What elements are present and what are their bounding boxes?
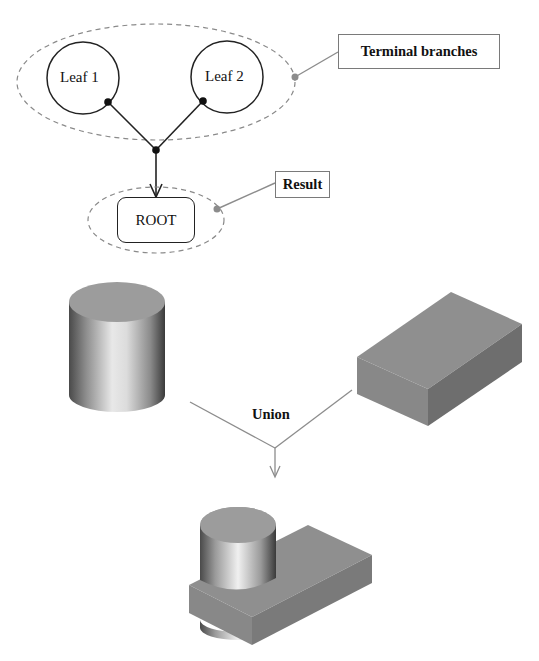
- edge-leaf2: [156, 101, 203, 150]
- leaf-2-label: Leaf 2: [205, 68, 244, 85]
- union-result-solid: [189, 507, 372, 645]
- joint-dot: [104, 98, 112, 106]
- edge-leaf1: [108, 102, 156, 150]
- box-solid: [357, 292, 522, 426]
- union-label: Union: [252, 406, 290, 423]
- result-callout: Result: [275, 171, 330, 198]
- diagram-canvas: [0, 0, 539, 661]
- terminal-branches-label: Terminal branches: [361, 43, 478, 60]
- joint-dot: [199, 97, 207, 105]
- root-label: ROOT: [136, 212, 177, 229]
- terminal-group-ellipse: [17, 24, 295, 140]
- terminal-callout-connector: [295, 52, 338, 77]
- cylinder-solid: [69, 282, 165, 412]
- result-label: Result: [283, 176, 322, 193]
- root-node: ROOT: [117, 197, 195, 243]
- result-callout-connector: [217, 183, 275, 209]
- joint-dot: [152, 146, 160, 154]
- leaf-1-label: Leaf 1: [60, 69, 99, 86]
- terminal-branches-callout: Terminal branches: [338, 34, 500, 69]
- result-callout-dot: [214, 206, 221, 213]
- terminal-callout-dot: [292, 74, 299, 81]
